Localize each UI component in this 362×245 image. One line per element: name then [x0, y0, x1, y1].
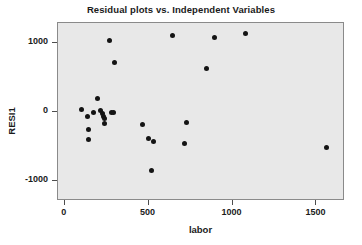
y-tick-label: -1000	[0, 174, 48, 184]
x-tick-label: 500	[140, 207, 155, 217]
x-tick-mark	[315, 200, 316, 205]
x-tick-mark	[232, 200, 233, 205]
data-point	[95, 96, 100, 101]
data-point	[91, 110, 96, 115]
data-point	[86, 127, 91, 132]
data-point	[212, 35, 217, 40]
data-point	[112, 60, 117, 65]
x-tick-label: 1500	[305, 207, 325, 217]
data-point	[102, 116, 107, 121]
data-point	[140, 122, 145, 127]
data-point	[86, 137, 91, 142]
chart-title: Residual plots vs. Independent Variables	[0, 4, 362, 15]
data-point	[204, 66, 209, 71]
data-point	[324, 145, 329, 150]
x-tick-label: 1000	[222, 207, 242, 217]
data-point	[149, 168, 154, 173]
data-point	[79, 107, 84, 112]
data-point	[151, 139, 156, 144]
plot-area	[57, 22, 344, 200]
y-tick-label: 1000	[0, 36, 48, 46]
x-tick-mark	[148, 200, 149, 205]
scatter-plot-figure: Residual plots vs. Independent Variables…	[0, 0, 362, 245]
y-tick-label: 0	[0, 105, 48, 115]
data-point	[184, 120, 189, 125]
x-tick-label: 0	[61, 207, 66, 217]
data-point	[85, 114, 90, 119]
x-axis-label: labor	[57, 224, 344, 235]
data-point	[107, 38, 112, 43]
data-point	[243, 31, 248, 36]
data-point	[102, 121, 107, 126]
data-point	[182, 141, 187, 146]
data-point	[111, 110, 116, 115]
y-axis-label-wrapper: RESI1	[4, 96, 18, 146]
data-point	[170, 33, 175, 38]
x-tick-mark	[64, 200, 65, 205]
